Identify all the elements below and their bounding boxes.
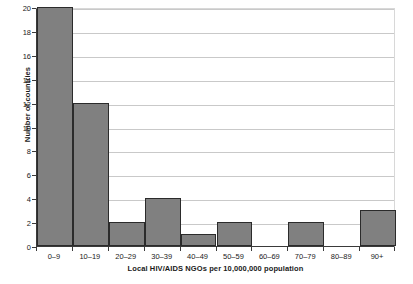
bar [181,234,217,246]
x-axis-tick-label: 80–89 [331,252,352,261]
x-axis-tick-label: 70–79 [295,252,316,261]
x-axis-tick-label: 10–19 [79,252,100,261]
bar [145,198,181,246]
bar [288,222,324,246]
y-axis-tick-label: 4 [14,195,31,204]
y-axis-tick-labels: 02468101214161820 [14,8,31,247]
bar [73,103,109,246]
y-axis-tick-label: 6 [14,171,31,180]
x-axis-title: Local HIV/AIDS NGOs per 10,000,000 popul… [36,264,395,273]
x-axis-tick-label: 50–59 [223,252,244,261]
plot-area [36,8,395,247]
x-axis-tick-mark [394,247,395,251]
x-axis-tick-label: 30–39 [151,252,172,261]
y-axis-tick-label: 18 [14,27,31,36]
x-axis-tick-marks [36,247,395,251]
x-axis-tick-mark [323,247,324,251]
y-axis-tick-label: 16 [14,51,31,60]
x-axis-tick-mark [108,247,109,251]
bar [109,222,145,246]
y-axis-tick-label: 0 [14,243,31,252]
x-axis-tick-label: 60–69 [259,252,280,261]
bar-series [37,9,394,246]
y-axis-tick-label: 2 [14,219,31,228]
histogram-figure: Number of countries 02468101214161820 0–… [0,0,413,284]
x-axis-tick-mark [359,247,360,251]
x-axis-tick-mark [287,247,288,251]
x-axis-tick-mark [36,247,37,251]
bar [360,210,396,246]
y-axis-tick-label: 8 [14,147,31,156]
y-axis-tick-label: 14 [14,75,31,84]
x-axis-tick-label: 40–49 [187,252,208,261]
x-axis-tick-mark [180,247,181,251]
x-axis-tick-label: 20–29 [115,252,136,261]
y-axis-tick-label: 12 [14,99,31,108]
x-axis-tick-label: 0–9 [48,252,61,261]
bar [217,222,253,246]
y-axis-tick-label: 20 [14,4,31,13]
x-axis-tick-label: 90+ [371,252,384,261]
x-axis-tick-mark [251,247,252,251]
x-axis-tick-mark [72,247,73,251]
x-axis-tick-mark [216,247,217,251]
x-axis-tick-labels: 0–910–1920–2930–3940–4950–5960–6970–7980… [36,252,395,264]
x-axis-tick-mark [144,247,145,251]
bar [37,7,73,246]
y-axis-tick-label: 10 [14,123,31,132]
